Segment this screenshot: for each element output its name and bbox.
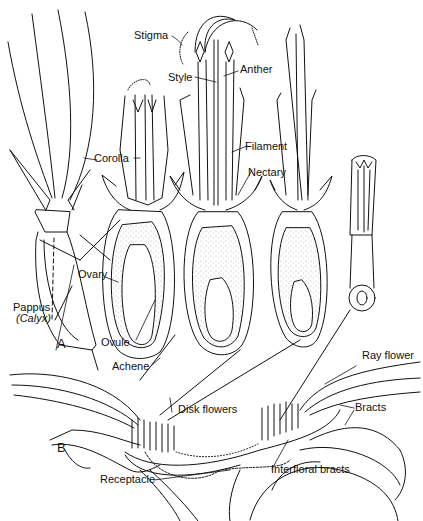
flower-disk-1	[102, 80, 184, 359]
label-bracts: Bracts	[355, 401, 386, 413]
label-interfloral-bracts: Interfloral bracts	[271, 463, 350, 475]
flower-ray-small	[349, 156, 376, 312]
label-stigma: Stigma	[134, 29, 168, 41]
label-ovule: Ovule	[101, 336, 130, 348]
label-anther: Anther	[240, 63, 272, 75]
label-disk-flowers: Disk flowers	[178, 403, 237, 415]
flower-head-b	[10, 362, 420, 521]
panel-label-b: B	[57, 441, 66, 455]
label-style: Style	[168, 71, 192, 83]
label-calyx: (Calyx)	[16, 312, 51, 324]
label-nectary: Nectary	[248, 166, 286, 178]
label-ovary: Ovary	[78, 268, 107, 280]
label-receptacle: Receptacle	[100, 473, 155, 485]
label-ray-flower: Ray flower	[362, 349, 414, 361]
flower-disk-3	[270, 25, 332, 347]
label-corolla: Corolla	[94, 152, 129, 164]
label-filament: Filament	[245, 140, 287, 152]
label-achene: Achene	[112, 360, 149, 372]
panel-label-a: A	[57, 337, 66, 351]
